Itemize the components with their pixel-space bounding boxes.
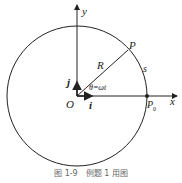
arc-length-label: s xyxy=(143,64,147,74)
point-p0-label: P0 xyxy=(147,100,156,112)
unit-vector-j-label: j xyxy=(67,77,70,88)
point-p0-dot xyxy=(145,94,149,98)
point-p-label: P xyxy=(129,40,136,51)
x-axis-label: x xyxy=(170,96,175,107)
y-axis-label: y xyxy=(82,6,87,17)
angle-label: θ=ωt xyxy=(89,84,106,92)
figure-caption: 图 1-9 例题 1 用图 xyxy=(0,170,182,178)
origin-label: O xyxy=(66,99,74,110)
unit-vector-i-label: i xyxy=(89,100,92,111)
radius-label: R xyxy=(97,60,104,71)
